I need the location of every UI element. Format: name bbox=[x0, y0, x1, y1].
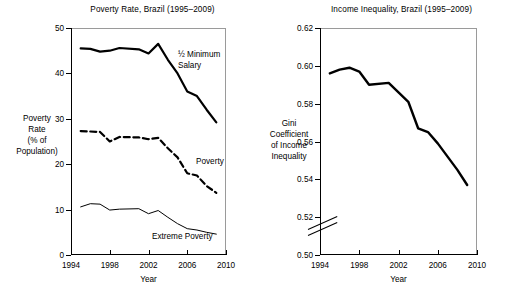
x-tick-left-2010 bbox=[226, 250, 227, 255]
y-tick-label-left-50: 50 bbox=[55, 24, 64, 33]
line-extreme-poverty bbox=[81, 204, 217, 234]
chart-title-right: Income Inequality, Brazil (1995–2009) bbox=[253, 5, 506, 14]
series-annotation-minimum-salary: ½ Minimum Salary bbox=[178, 50, 220, 71]
series-annotation-extreme-poverty: Extreme Poverty bbox=[152, 232, 213, 243]
x-tick-label-left-2002: 2002 bbox=[139, 261, 157, 270]
y-tick-label-right-062: 0.62 bbox=[297, 24, 313, 33]
y-axis-title-left-line4: Population) bbox=[8, 146, 66, 157]
y-tick-label-right-058: 0.58 bbox=[297, 99, 313, 108]
series-annotation-poverty: Poverty bbox=[196, 157, 224, 168]
y-tick-label-right-060: 0.60 bbox=[297, 61, 313, 70]
y-axis-title-left-line2: Rate bbox=[8, 124, 66, 135]
x-tick-label-left-1998: 1998 bbox=[101, 261, 119, 270]
y-axis-title-right-line2: Coefficient bbox=[258, 129, 320, 140]
y-tick-label-left-0: 0 bbox=[59, 251, 64, 260]
series-annotation-minimum-salary-line2: Salary bbox=[178, 61, 220, 72]
y-axis-title-left: Poverty Rate (% of Population) bbox=[8, 113, 66, 157]
y-tick-label-right-054: 0.54 bbox=[297, 175, 313, 184]
y-tick-right-050 bbox=[315, 255, 320, 256]
x-tick-label-left-1994: 1994 bbox=[62, 261, 80, 270]
y-axis-title-left-line3: (% of bbox=[8, 135, 66, 146]
x-tick-label-left-2006: 2006 bbox=[178, 261, 196, 270]
series-lines-right bbox=[320, 28, 477, 255]
y-axis-title-left-line1: Poverty bbox=[8, 113, 66, 124]
x-tick-label-right-2002: 2002 bbox=[389, 261, 407, 270]
y-tick-label-left-10: 10 bbox=[55, 205, 64, 214]
series-annotation-minimum-salary-line1: ½ Minimum bbox=[178, 50, 220, 61]
panel-poverty-rate: Poverty Rate, Brazil (1995–2009) 0 10 20… bbox=[0, 0, 253, 294]
x-tick-label-right-1998: 1998 bbox=[350, 261, 368, 270]
x-axis-title-left: Year bbox=[71, 275, 226, 284]
y-axis-title-right-line4: Inequality bbox=[258, 151, 320, 162]
line-gini-coefficient bbox=[330, 68, 467, 185]
figure-canvas: Poverty Rate, Brazil (1995–2009) 0 10 20… bbox=[0, 0, 506, 294]
x-tick-label-right-1994: 1994 bbox=[311, 261, 329, 270]
y-tick-left-0 bbox=[66, 255, 71, 256]
y-axis-title-right-line1: Gini bbox=[258, 118, 320, 129]
x-tick-label-right-2006: 2006 bbox=[429, 261, 447, 270]
chart-title-left: Poverty Rate, Brazil (1995–2009) bbox=[0, 5, 279, 14]
x-axis-title-right: Year bbox=[320, 275, 477, 284]
y-tick-label-left-40: 40 bbox=[55, 69, 64, 78]
x-tick-right-2010 bbox=[477, 250, 478, 255]
y-tick-label-left-20: 20 bbox=[55, 160, 64, 169]
x-tick-label-left-2010: 2010 bbox=[217, 261, 235, 270]
y-axis-title-right-line3: of Income bbox=[258, 140, 320, 151]
plot-area-right: 0.50 0.52 0.54 0.56 0.58 0.60 0.62 1994 … bbox=[320, 28, 477, 255]
x-tick-label-right-2010: 2010 bbox=[468, 261, 486, 270]
y-tick-label-right-050: 0.50 bbox=[297, 251, 313, 260]
y-axis-title-right: Gini Coefficient of Income Inequality bbox=[258, 118, 320, 162]
